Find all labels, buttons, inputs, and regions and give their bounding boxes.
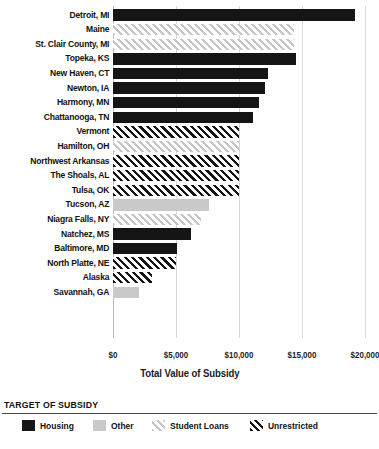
category-label: Harmony, MN: [8, 98, 113, 107]
bar: [113, 141, 239, 152]
category-label: St. Clair County, MI: [8, 40, 113, 49]
bar: [113, 9, 355, 20]
bar-row: St. Clair County, MI: [0, 37, 379, 52]
legend-label-unrestricted: Unrestricted: [268, 421, 321, 431]
category-label: Vermont: [8, 127, 113, 136]
legend-item-other[interactable]: Other: [93, 420, 135, 431]
bar-cell: [113, 285, 379, 300]
bar-cell: [113, 169, 379, 184]
legend-item-student[interactable]: Student Loans: [152, 420, 233, 431]
bar-row: North Platte, NE: [0, 256, 379, 271]
bar-row: Harmony, MN: [0, 96, 379, 111]
legend-item-unrestricted[interactable]: Unrestricted: [250, 420, 321, 431]
bar-cell: [113, 256, 379, 271]
bar-cell: [113, 125, 379, 140]
bar-cell: [113, 96, 379, 111]
bar-cell: [113, 66, 379, 81]
bar-cell: [113, 242, 379, 257]
bar: [113, 24, 294, 35]
bar-row: Northwest Arkansas: [0, 154, 379, 169]
x-tick-label: $10,000: [225, 350, 254, 360]
x-tick-label: $15,000: [288, 350, 317, 360]
category-label: North Platte, NE: [8, 259, 113, 268]
category-label: Tulsa, OK: [8, 186, 113, 195]
legend-item-housing[interactable]: Housing: [22, 420, 76, 431]
bar-cell: [113, 227, 379, 242]
bar-row: New Haven, CT: [0, 66, 379, 81]
bar-cell: [113, 198, 379, 213]
bar: [113, 112, 253, 123]
bar: [113, 272, 152, 283]
legend-label-student: Student Loans: [170, 421, 233, 431]
category-label: Savannah, GA: [8, 288, 113, 297]
category-label: Baltimore, MD: [8, 244, 113, 253]
x-tick-label: $0: [109, 350, 118, 360]
bar-cell: [113, 52, 379, 67]
category-label: Detroit, MI: [8, 11, 113, 20]
bar-row: Hamilton, OH: [0, 139, 379, 154]
bar-row: Newton, IA: [0, 81, 379, 96]
x-axis-title-text: Total Value of Subsidy: [140, 368, 239, 379]
x-tick-label: $20,000: [351, 350, 379, 360]
bar-row: Savannah, GA: [0, 285, 379, 300]
bar-cell: [113, 37, 379, 52]
bar: [113, 155, 239, 166]
bar: [113, 243, 177, 254]
legend-swatch-other: [93, 420, 106, 431]
bar: [113, 82, 265, 93]
bar-row: Natchez, MS: [0, 227, 379, 242]
bar: [113, 126, 239, 137]
x-tick-label: $5,000: [164, 350, 188, 360]
bar: [113, 68, 268, 79]
bar: [113, 199, 209, 210]
bar-row: The Shoals, AL: [0, 169, 379, 184]
x-axis-title: Total Value of Subsidy: [0, 368, 379, 379]
bar: [113, 185, 239, 196]
bar-row: Baltimore, MD: [0, 242, 379, 257]
bar-row: Niagra Falls, NY: [0, 212, 379, 227]
subsidy-bar-chart: Detroit, MIMaineSt. Clair County, MITope…: [0, 0, 379, 449]
bar-cell: [113, 183, 379, 198]
category-label: The Shoals, AL: [8, 171, 113, 180]
category-label: Niagra Falls, NY: [8, 215, 113, 224]
bar-row: Tulsa, OK: [0, 183, 379, 198]
category-label: Northwest Arkansas: [8, 157, 113, 166]
category-label: Tucson, AZ: [8, 200, 113, 209]
bar-cell: [113, 110, 379, 125]
category-label: Newton, IA: [8, 84, 113, 93]
bar-cell: [113, 81, 379, 96]
legend-swatch-housing: [22, 420, 35, 431]
legend-swatch-unrestricted: [250, 420, 263, 431]
bar-cell: [113, 271, 379, 286]
category-label: Topeka, KS: [8, 54, 113, 63]
bar-rows: Detroit, MIMaineSt. Clair County, MITope…: [0, 8, 379, 300]
legend-label-text: Other: [111, 421, 134, 431]
legend-swatch-student: [152, 420, 165, 431]
bar: [113, 287, 139, 298]
bar-row: Vermont: [0, 125, 379, 140]
bar-row: Tucson, AZ: [0, 198, 379, 213]
legend-label-text: Student Loans: [170, 421, 229, 431]
category-label: Chattanooga, TN: [8, 113, 113, 122]
plot-area: Detroit, MIMaineSt. Clair County, MITope…: [0, 0, 379, 345]
bar-cell: [113, 154, 379, 169]
bar-row: Detroit, MI: [0, 8, 379, 23]
legend: TARGET OF SUBSIDY HousingOtherStudent Lo…: [0, 400, 379, 431]
category-label: Alaska: [8, 273, 113, 282]
x-axis-ticks: $0$5,000$10,000$15,000$20,000: [0, 350, 379, 364]
bar: [113, 257, 176, 268]
legend-title-text: TARGET OF SUBSIDY: [4, 400, 98, 410]
legend-label-text: Housing: [40, 421, 74, 431]
bar-row: Maine: [0, 23, 379, 38]
category-label: Maine: [8, 25, 113, 34]
category-label: Natchez, MS: [8, 230, 113, 239]
bar: [113, 97, 259, 108]
bar-row: Alaska: [0, 271, 379, 286]
bar: [113, 228, 191, 239]
bar-row: Topeka, KS: [0, 52, 379, 67]
bar: [113, 53, 296, 64]
bar-row: Chattanooga, TN: [0, 110, 379, 125]
bar: [113, 39, 294, 50]
bar-cell: [113, 8, 379, 23]
legend-items: HousingOtherStudent LoansUnrestricted: [0, 420, 379, 431]
